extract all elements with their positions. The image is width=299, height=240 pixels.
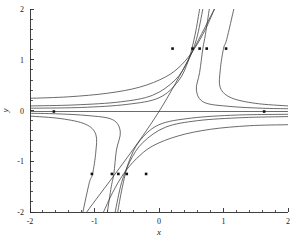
x-tick-label: 0: [157, 217, 161, 226]
y-tick-label: -1: [17, 157, 24, 166]
axes-group: [30, 9, 288, 212]
curve-upper-branch-2: [30, 9, 203, 106]
y-tick-label: 0: [20, 107, 24, 116]
axis-labels-group: -2-1012-2-1012xy: [0, 5, 290, 237]
curve-left-hook-2: [30, 116, 97, 212]
curve-left-hook-1: [30, 113, 120, 212]
x-axis-title: x: [156, 227, 161, 237]
x-tick-label: -2: [27, 217, 34, 226]
x-tick-label: 2: [286, 217, 290, 226]
data-point-marker: [171, 47, 174, 50]
data-point-marker: [125, 173, 128, 176]
data-point-marker: [117, 173, 120, 176]
data-point-marker: [198, 47, 201, 50]
data-point-marker: [145, 173, 148, 176]
y-axis-title: y: [0, 109, 10, 114]
y-tick-label: -2: [17, 208, 24, 217]
curve-upper-branch-3: [30, 9, 200, 108]
data-point-marker: [205, 47, 208, 50]
plot-figure: -2-1012-2-1012xy: [0, 0, 299, 240]
plot-canvas: -2-1012-2-1012xy: [0, 0, 299, 240]
x-tick-label: 1: [222, 217, 226, 226]
y-tick-label: 1: [20, 56, 24, 65]
y-tick-label: 2: [20, 5, 24, 14]
curve-right-hook-1: [196, 9, 288, 109]
data-point-marker: [263, 110, 266, 113]
data-point-marker: [53, 110, 56, 113]
data-point-marker: [191, 47, 194, 50]
data-point-marker: [91, 173, 94, 176]
curve-right-hook-2: [219, 9, 288, 106]
curve-upper-branch-1: [30, 9, 214, 98]
curve-lower-branch-3: [118, 114, 288, 212]
data-point-marker: [111, 173, 114, 176]
curve-separatrix-diagonal: [87, 9, 215, 212]
x-tick-label: -1: [91, 217, 98, 226]
curves-group: [30, 9, 288, 212]
data-point-marker: [225, 47, 228, 50]
curve-lower-branch-1: [104, 125, 288, 212]
